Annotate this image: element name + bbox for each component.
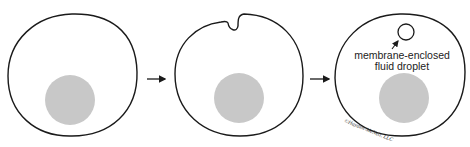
fluid-droplet (398, 24, 414, 40)
cell-2 (175, 14, 303, 136)
droplet-pointer-arrow-icon (392, 41, 398, 49)
cell-1 (8, 14, 137, 136)
cell-3: membrane-enclosed fluid droplet ©Hayden-… (335, 14, 465, 143)
pinocytosis-diagram: membrane-enclosed fluid droplet ©Hayden-… (0, 0, 470, 147)
nucleus (214, 73, 264, 123)
copyright-credit: ©Hayden-McNeil, LLC (344, 117, 395, 142)
nucleus (379, 73, 429, 123)
droplet-label-line2: fluid droplet (375, 60, 429, 72)
nucleus (45, 75, 95, 125)
